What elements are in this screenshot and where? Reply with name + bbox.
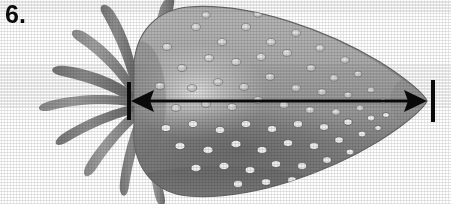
item-number-label: 6. — [5, 2, 26, 27]
figure-container: 6. — [0, 0, 451, 204]
strawberry-illustration — [0, 0, 451, 204]
